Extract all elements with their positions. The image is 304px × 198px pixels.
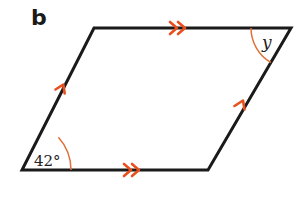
part-label: b	[31, 5, 47, 30]
parallelogram-diagram: b 42° y	[0, 0, 304, 198]
parallelogram-shape	[22, 28, 291, 170]
angle-label-y: y	[261, 32, 272, 52]
single-arrow-right-icon	[235, 101, 245, 110]
angle-label-42: 42°	[34, 152, 61, 170]
parallelogram-outline	[22, 28, 291, 170]
